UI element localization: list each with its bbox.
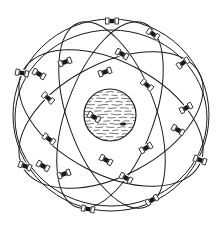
- solar-panel-left: [81, 205, 85, 212]
- solar-panel-left: [15, 69, 19, 76]
- satellite-icon: [56, 168, 72, 179]
- satellite-icon: [118, 171, 134, 184]
- solar-panel-right: [24, 71, 28, 78]
- satellite-icon: [14, 68, 29, 77]
- satellite-icon: [98, 153, 114, 166]
- satellite-body: [110, 19, 115, 23]
- satellite-icon: [35, 159, 51, 172]
- satellite-icon: [178, 101, 194, 114]
- gps-constellation-diagram: [0, 0, 222, 228]
- satellite-body: [19, 70, 25, 75]
- satellite-icon: [80, 204, 95, 213]
- solar-panel-right: [115, 18, 119, 24]
- satellite-body: [85, 206, 91, 211]
- satellite-icon: [139, 78, 154, 92]
- solar-panel-left: [106, 18, 110, 24]
- satellite-icon: [31, 67, 47, 80]
- satellite-icon: [97, 66, 113, 77]
- satellite-icon: [40, 91, 55, 105]
- solar-panel-right: [90, 207, 94, 214]
- satellite-icon: [41, 132, 56, 146]
- satellite-icon: [170, 123, 186, 136]
- satellite-icon: [105, 18, 119, 25]
